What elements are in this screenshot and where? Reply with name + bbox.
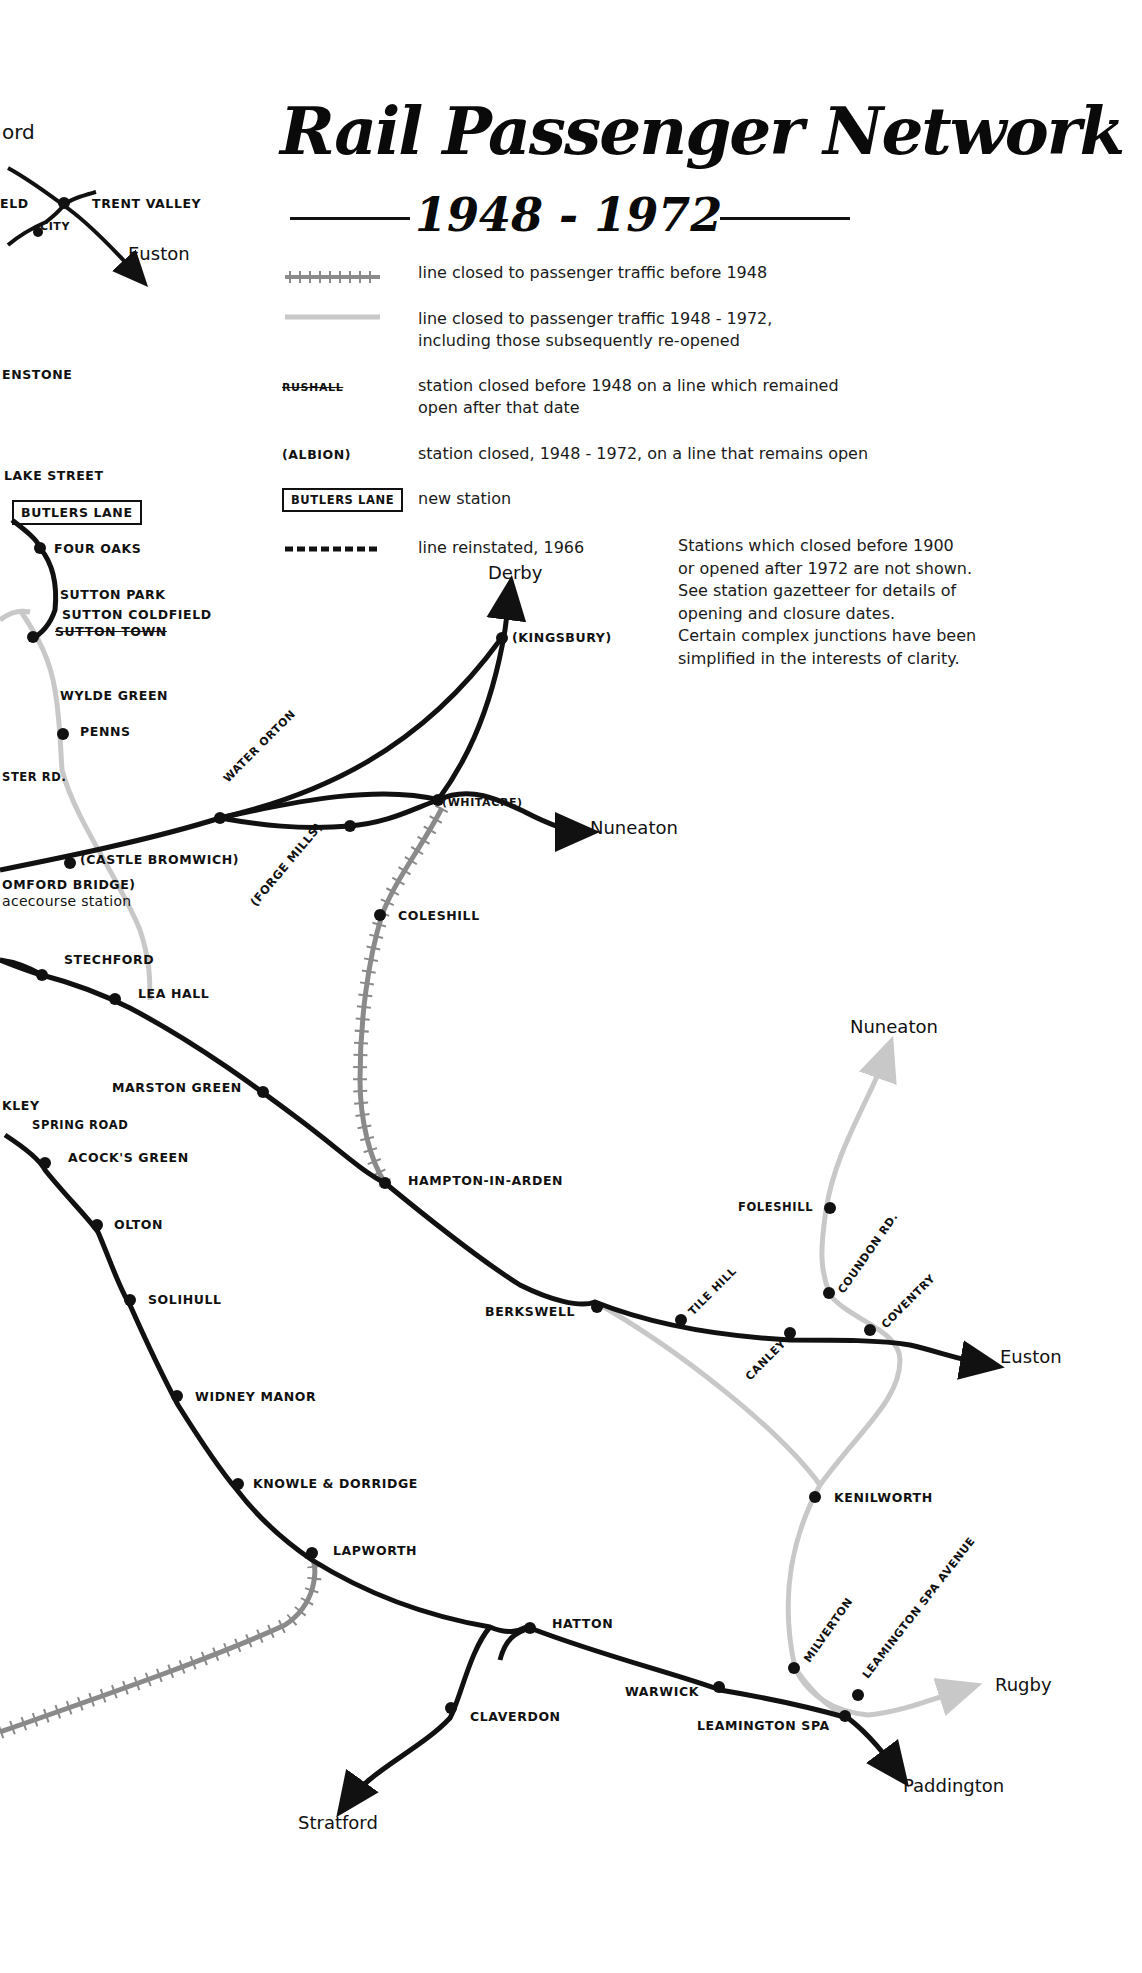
station-penns: PENNS <box>80 724 131 739</box>
station-kley: KLEY <box>2 1098 40 1113</box>
note-line: opening and closure dates. <box>678 603 998 626</box>
station-eld: ELD <box>0 196 29 211</box>
station-lapworth: LAPWORTH <box>333 1543 417 1558</box>
legend-line-reinstated: line reinstated, 1966 <box>418 537 584 559</box>
station-spring-road: SPRING ROAD <box>32 1118 128 1132</box>
station-sutton-park: SUTTON PARK <box>60 587 166 602</box>
station-ster-rd: STER RD. <box>2 770 66 784</box>
station-city: CITY <box>40 220 70 233</box>
station-sutton-coldfield: SUTTON COLDFIELD <box>62 607 212 622</box>
station-castle-bromwich: (CASTLE BROMWICH) <box>80 852 239 867</box>
station-omford-bridge: OMFORD BRIDGE) <box>2 877 136 892</box>
note-line: simplified in the interests of clarity. <box>678 648 998 671</box>
legend-sample-butlers-lane: BUTLERS LANE <box>282 488 403 512</box>
station-racecourse: acecourse station <box>2 893 131 909</box>
legend-closed-before-1948: line closed to passenger traffic before … <box>418 262 767 284</box>
station-coleshill: COLESHILL <box>398 908 480 923</box>
title-rule-right <box>720 217 850 220</box>
station-claverdon: CLAVERDON <box>470 1709 561 1724</box>
legend-closed-1948-1972-line2: including those subsequently re-opened <box>418 330 740 352</box>
note-line: Stations which closed before 1900 <box>678 535 998 558</box>
legend-new-station: new station <box>418 488 511 510</box>
station-dots <box>27 197 876 1722</box>
station-solihull: SOLIHULL <box>148 1292 222 1307</box>
map-title: Rail Passenger Network <box>280 92 1123 170</box>
dest-rugby: Rugby <box>995 1674 1052 1695</box>
station-warwick: WARWICK <box>625 1684 699 1699</box>
station-sutton-town: SUTTON TOWN <box>55 624 167 639</box>
dest-stratford: Stratford <box>298 1812 378 1833</box>
title-rule-left <box>290 217 410 220</box>
dest-nuneaton-right: Nuneaton <box>850 1016 938 1037</box>
station-berkswell: BERKSWELL <box>485 1304 575 1319</box>
map-notes: Stations which closed before 1900 or ope… <box>678 535 998 670</box>
dest-euston-right: Euston <box>1000 1346 1062 1367</box>
station-kingsbury: (KINGSBURY) <box>512 630 612 645</box>
station-hatton: HATTON <box>552 1616 613 1631</box>
station-widney-manor: WIDNEY MANOR <box>195 1389 316 1404</box>
station-enstone: ENSTONE <box>2 367 72 382</box>
dest-nuneaton-mid: Nuneaton <box>590 817 678 838</box>
dest-derby: Derby <box>488 562 542 583</box>
station-foleshill: FOLESHILL <box>738 1200 813 1214</box>
legend-station-closed-1948-1972: station closed, 1948 - 1972, on a line t… <box>418 443 868 465</box>
station-stechford: STECHFORD <box>64 952 154 967</box>
station-hampton-in-arden: HAMPTON-IN-ARDEN <box>408 1173 563 1188</box>
legend-closed-1948-1972: line closed to passenger traffic 1948 - … <box>418 308 772 330</box>
station-trent-valley: TRENT VALLEY <box>92 196 201 211</box>
legend-sample-rushall: RUSHALL <box>282 381 343 394</box>
legend-sample-albion: (ALBION) <box>282 447 351 462</box>
map-subtitle-years: 1948 - 1972 <box>415 188 722 242</box>
dest-paddington: Paddington <box>903 1775 1004 1796</box>
note-line: Certain complex junctions have been <box>678 625 998 648</box>
station-four-oaks: FOUR OAKS <box>54 541 141 556</box>
note-line: or opened after 1972 are not shown. <box>678 558 998 581</box>
station-leamington-spa: LEAMINGTON SPA <box>697 1718 830 1733</box>
station-wylde-green: WYLDE GREEN <box>60 688 168 703</box>
station-lea-hall: LEA HALL <box>138 986 209 1001</box>
station-acocks-green: ACOCK'S GREEN <box>68 1150 189 1165</box>
station-kenilworth: KENILWORTH <box>834 1490 933 1505</box>
dest-euston-top: Euston <box>128 243 190 264</box>
legend-hatched-line-icon <box>285 271 380 283</box>
station-lake-street: LAKE STREET <box>4 468 104 483</box>
station-whitacre: (WHITACRE) <box>442 796 523 809</box>
legend-station-closed-before-1948: station closed before 1948 on a line whi… <box>418 375 839 397</box>
legend-station-closed-before-1948-line2: open after that date <box>418 397 580 419</box>
note-line: See station gazetteer for details of <box>678 580 998 603</box>
station-butlers-lane: BUTLERS LANE <box>12 500 142 525</box>
station-knowle-dorridge: KNOWLE & DORRIDGE <box>253 1476 418 1491</box>
station-marston-green: MARSTON GREEN <box>112 1080 242 1095</box>
dest-ord: ord <box>2 120 35 144</box>
station-olton: OLTON <box>114 1217 163 1232</box>
